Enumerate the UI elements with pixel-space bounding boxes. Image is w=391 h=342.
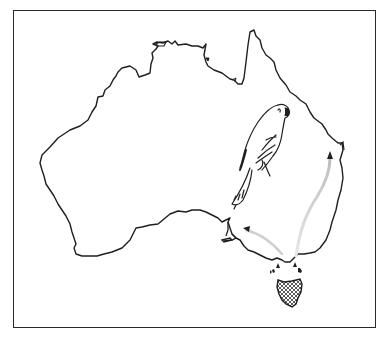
- map-canvas: [0, 0, 391, 342]
- tasmania-breeding-range: [277, 279, 302, 307]
- arrowhead-north-east: [327, 151, 333, 159]
- groote-island: [206, 58, 209, 61]
- melville-island: [156, 42, 166, 46]
- arrowhead-tas-2: [293, 262, 297, 267]
- flinders-island: [298, 268, 302, 273]
- arrowhead-tas-3: [270, 270, 272, 274]
- australia-coastline: [40, 30, 343, 262]
- king-island: [272, 269, 275, 273]
- parrot-illustration: [232, 104, 289, 209]
- arrowhead-tas-1: [276, 263, 280, 268]
